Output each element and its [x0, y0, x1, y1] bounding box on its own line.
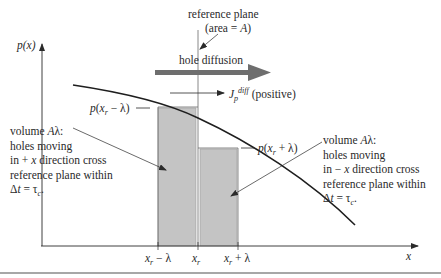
right-volume-note: volume Aλ: holes moving in − x direction… — [323, 133, 426, 206]
reference-plane-label: reference plane — [188, 7, 259, 21]
current-label: Jpdiff (positive) — [229, 87, 296, 101]
right-bar-label: p(xr + λ) — [258, 141, 297, 155]
x-axis-label: x — [406, 249, 411, 263]
hole-diffusion-label: hole diffusion — [179, 53, 243, 67]
left-volume-bar — [158, 108, 196, 246]
reference-plane-area-label: (area = A) — [205, 21, 251, 35]
x-tick-xr-minus-lambda: xr − λ — [145, 251, 171, 265]
x-tick-xr: xr — [192, 251, 200, 265]
y-axis-label: p(x) — [17, 38, 36, 52]
x-tick-xr-plus-lambda: xr + λ — [224, 251, 250, 265]
left-volume-note: volume Aλ: holes moving in + x direction… — [10, 124, 113, 197]
right-volume-bar — [200, 149, 237, 246]
left-bar-label: p(xr − λ) — [90, 101, 129, 115]
